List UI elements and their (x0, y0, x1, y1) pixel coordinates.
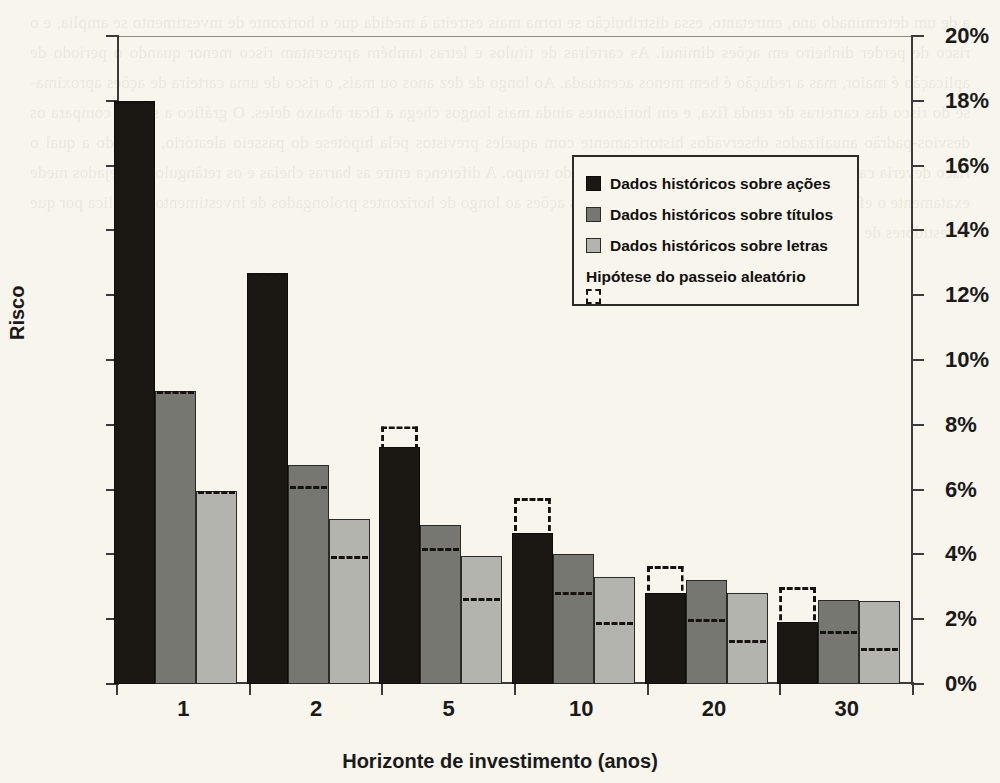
x-tick (912, 682, 914, 695)
y-label-right: 0% (945, 673, 977, 695)
y-tick-right (911, 618, 924, 620)
random-walk-marker (157, 391, 194, 684)
random-walk-marker (116, 101, 153, 684)
y-label-right: 6% (945, 479, 977, 501)
random-walk-marker (198, 491, 235, 684)
x-label-2: 2 (286, 696, 346, 722)
legend-label-letras: Dados históricos sobre letras (610, 238, 828, 254)
random-walk-marker (422, 548, 459, 684)
plot-top-border (117, 36, 913, 37)
y-axis-title: Risco (6, 286, 29, 340)
legend-item: Dados históricos sobre títulos (586, 199, 845, 230)
y-tick-right (911, 424, 924, 426)
random-walk-marker (463, 598, 500, 684)
x-label-20: 20 (684, 696, 744, 722)
bar (645, 593, 686, 684)
y-tick-right (911, 100, 924, 102)
x-label-10: 10 (551, 696, 611, 722)
y-tick-right (911, 294, 924, 296)
y-tick-right (911, 359, 924, 361)
legend-item: Dados históricos sobre letras (586, 230, 845, 261)
bar (777, 622, 818, 684)
y-label-right: 16% (945, 155, 989, 177)
legend-swatch-letras-icon (586, 238, 601, 253)
legend-item: Dados históricos sobre ações (586, 168, 845, 199)
x-label-1: 1 (153, 696, 213, 722)
y-label-right: 18% (945, 90, 989, 112)
y-label-right: 14% (945, 219, 989, 241)
random-walk-marker (729, 640, 766, 684)
legend-item: Hipótese do passeio aleatório (586, 261, 845, 292)
x-label-30: 30 (817, 696, 877, 722)
y-label-right: 10% (945, 349, 989, 371)
y-label-right: 12% (945, 284, 989, 306)
random-walk-marker (331, 556, 368, 684)
y-tick-right (911, 489, 924, 491)
y-tick-right (911, 35, 924, 37)
legend-swatch-titulos-icon (586, 207, 601, 222)
plot-area (117, 36, 913, 684)
legend-label-acoes: Dados históricos sobre ações (610, 176, 831, 192)
chart-page: a de um determinado ano, entretanto, ess… (0, 0, 1000, 783)
legend-swatch-passeio-aleatorio-icon (586, 289, 601, 304)
y-tick-right (911, 229, 924, 231)
y-tick-right (911, 553, 924, 555)
y-tick-left (106, 35, 119, 37)
y-label-right: 20% (945, 25, 989, 47)
y-tick-right (911, 165, 924, 167)
y-label-right: 8% (945, 414, 977, 436)
legend-label-passeio-aleatorio: Hipótese do passeio aleatório (586, 269, 806, 285)
bar (379, 447, 420, 684)
legend-label-titulos: Dados históricos sobre títulos (610, 207, 833, 223)
random-walk-marker (861, 648, 898, 684)
random-walk-marker (688, 619, 725, 684)
bar (512, 533, 553, 684)
y-label-right: 2% (945, 608, 977, 630)
x-label-5: 5 (419, 696, 479, 722)
x-axis-title: Horizonte de investimento (anos) (0, 750, 1000, 773)
y-label-right: 4% (945, 543, 977, 565)
random-walk-marker (555, 592, 592, 684)
random-walk-marker (820, 631, 857, 684)
random-walk-marker (249, 273, 286, 684)
random-walk-marker (596, 622, 633, 684)
random-walk-marker (290, 486, 327, 684)
legend-swatch-acoes-icon (586, 176, 601, 191)
chart-legend: Dados históricos sobre ações Dados histó… (572, 155, 859, 306)
